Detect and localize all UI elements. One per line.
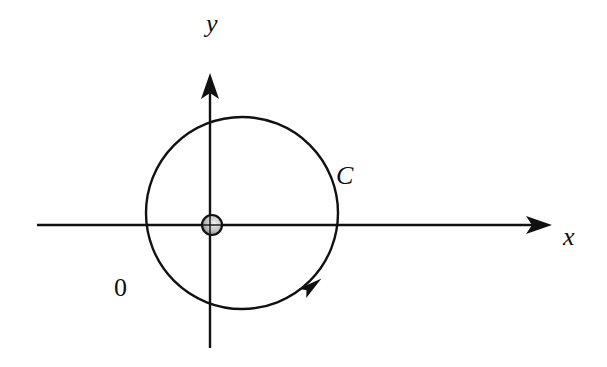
x-axis <box>37 216 552 234</box>
y-axis-label: y <box>203 9 218 38</box>
origin-label: 0 <box>114 273 127 302</box>
coordinate-diagram: y x C 0 <box>0 0 607 367</box>
path-c-circle <box>146 117 338 309</box>
particle-sphere <box>202 215 222 235</box>
y-axis <box>201 73 219 348</box>
curve-label-c: C <box>336 161 354 190</box>
x-axis-label: x <box>562 222 575 251</box>
